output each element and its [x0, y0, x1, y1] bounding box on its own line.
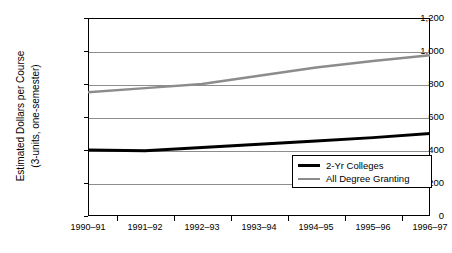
x-axis-tick-label: 1992–93	[172, 222, 232, 233]
legend-item-2-yr-colleges: 2-Yr Colleges	[298, 159, 427, 172]
legend-label: 2-Yr Colleges	[326, 160, 384, 172]
x-axis-tick-label: 1990–91	[58, 222, 118, 233]
legend-item-all-degree-granting: All Degree Granting	[298, 172, 427, 185]
series-line	[88, 55, 430, 92]
x-axis-tick-mark	[288, 216, 289, 221]
legend: 2-Yr Colleges All Degree Granting	[292, 155, 432, 188]
x-axis-tick-mark	[231, 216, 232, 221]
x-axis-tick-label: 1996–97	[400, 222, 452, 233]
x-axis-tick-label: 1994–95	[286, 222, 346, 233]
x-axis-tick-label: 1991–92	[115, 222, 175, 233]
x-axis-tick-mark	[117, 216, 118, 221]
y-axis-title: Estimated Dollars per Course (3-units, o…	[0, 0, 56, 232]
series-line	[88, 134, 430, 151]
x-axis-tick-mark	[402, 216, 403, 221]
y-axis-title-line-2: (3-units, one-semester)	[29, 0, 43, 232]
gray-line-swatch	[298, 178, 320, 180]
x-axis-tick-label: 1993–94	[229, 222, 289, 233]
y-axis-title-line-1: Estimated Dollars per Course	[14, 0, 28, 232]
black-line-swatch	[298, 164, 320, 167]
legend-label: All Degree Granting	[326, 173, 409, 185]
y-axis-tick-mark	[84, 216, 88, 217]
x-axis-tick-mark	[345, 216, 346, 221]
x-axis-tick-mark	[174, 216, 175, 221]
x-axis-tick-label: 1995–96	[343, 222, 403, 233]
